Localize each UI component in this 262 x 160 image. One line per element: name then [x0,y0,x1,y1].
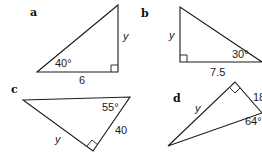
label-c: c [11,83,18,96]
right-angle-marker-a [111,65,118,72]
triangle-b-shape [180,7,262,62]
triangle-b: b y 30° 7.5 [141,7,262,78]
angle-c: 55° [102,101,119,113]
label-b: b [141,7,149,20]
side-a: 6 [79,74,85,86]
side-c: 40 [115,124,127,136]
angle-d: 64° [245,115,262,127]
right-angle-marker-c [87,140,98,146]
unknown-a: y [122,30,130,42]
unknown-c: y [54,133,62,145]
triangle-d: d y 18 64° [168,82,262,146]
angle-a: 40° [55,57,72,69]
right-angle-marker-b [180,55,187,62]
side-b: 7.5 [210,66,225,78]
triangle-c: c 55° 40 y [11,83,130,151]
angle-b: 30° [232,48,249,60]
label-d: d [173,92,181,105]
triangle-a: a 40° 6 y [30,5,130,86]
side-d: 18 [253,91,262,103]
triangles-diagram: a 40° 6 y b y 30° 7.5 c 55° 40 y d y 18 … [0,0,262,160]
triangle-a-shape [37,5,118,72]
right-angle-marker-d [230,88,240,93]
unknown-b: y [168,29,176,41]
triangle-d-shape [168,82,262,146]
unknown-d: y [194,102,202,114]
label-a: a [30,6,37,19]
